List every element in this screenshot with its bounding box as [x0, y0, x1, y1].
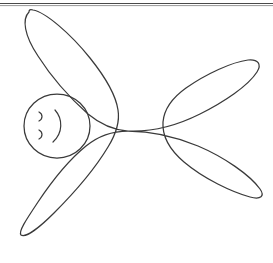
line-drawing	[0, 0, 273, 263]
drawing-canvas	[0, 0, 273, 263]
